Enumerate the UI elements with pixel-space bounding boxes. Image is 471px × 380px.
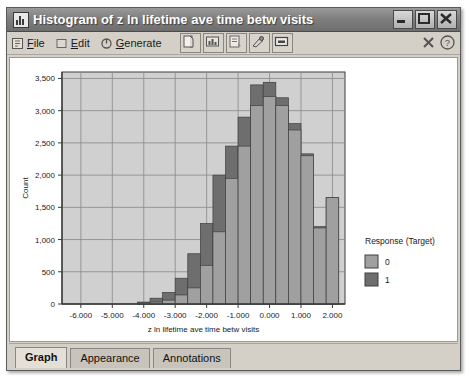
legend-label: 0 (385, 257, 390, 267)
svg-text:?: ? (445, 37, 450, 48)
legend-swatch (365, 273, 378, 286)
y-tick-label: 500 (42, 268, 56, 277)
x-axis-title: z ln lifetime ave time betw visits (148, 325, 260, 334)
y-tick-label: 3,500 (35, 74, 56, 83)
y-tick-label: 2,500 (35, 139, 56, 148)
histogram-bar[interactable] (326, 198, 339, 304)
toolbar: File Edit Generate (7, 32, 460, 55)
x-tick-label: -6.000 (70, 311, 93, 320)
y-tick-label: 1,500 (35, 203, 56, 212)
x-tick-label: -4.000 (132, 311, 155, 320)
histogram-window: Histogram of z ln lifetime ave time betw… (6, 7, 461, 371)
y-axis-title: Count (21, 177, 30, 199)
help-button[interactable]: ? (439, 34, 456, 51)
menu-file-label: File (27, 37, 45, 49)
toolbar-right-group: ? (418, 34, 456, 51)
chart-panel[interactable]: -6.000-5.000-4.000-3.000-2.000-1.0000.00… (9, 57, 458, 342)
maximize-button[interactable] (415, 10, 435, 29)
histogram-bar[interactable] (301, 156, 314, 304)
legend-title: Response (Target) (365, 236, 435, 246)
tab-appearance[interactable]: Appearance (70, 348, 149, 368)
y-tick-label: 1,000 (35, 236, 56, 245)
y-tick-label: 2,000 (35, 171, 56, 180)
y-tick-label: 3,000 (35, 107, 56, 116)
menu-generate-label: Generate (116, 37, 162, 49)
histogram-bar[interactable] (238, 146, 251, 304)
tab-strip: Graph Appearance Annotations (9, 343, 458, 368)
histogram-bar[interactable] (200, 265, 213, 304)
histogram-icon (13, 12, 29, 28)
x-axis-tick-labels: -6.000-5.000-4.000-3.000-2.000-1.0000.00… (70, 311, 343, 320)
histogram-bar[interactable] (175, 295, 188, 304)
edit-graph-button[interactable] (249, 33, 270, 53)
x-tick-label: -5.000 (101, 311, 124, 320)
x-tick-label: -3.000 (164, 311, 187, 320)
display-button[interactable] (272, 33, 293, 53)
window-title: Histogram of z ln lifetime ave time betw… (33, 12, 391, 27)
export-chart-button[interactable] (203, 33, 224, 53)
histogram-bar[interactable] (213, 232, 226, 304)
histogram-bar[interactable] (288, 130, 301, 304)
histogram-chart[interactable]: -6.000-5.000-4.000-3.000-2.000-1.0000.00… (10, 58, 457, 341)
menu-file[interactable]: File (11, 37, 45, 50)
y-axis-tick-labels: 05001,0001,5002,0002,5003,0003,500 (35, 74, 56, 309)
y-tick-label: 0 (51, 300, 56, 309)
print-button[interactable] (226, 33, 247, 53)
histogram-bar[interactable] (314, 228, 327, 304)
histogram-bar[interactable] (276, 106, 289, 304)
x-tick-label: 1.000 (291, 311, 312, 320)
menu-edit[interactable]: Edit (55, 37, 90, 50)
legend-swatch (365, 255, 378, 268)
file-icon (11, 37, 24, 50)
edit-icon (55, 37, 68, 50)
histogram-bar[interactable] (263, 96, 276, 304)
histogram-bar[interactable] (251, 106, 264, 304)
x-tick-label: 2.000 (322, 311, 343, 320)
minimize-button[interactable] (393, 10, 413, 29)
menu-generate[interactable]: Generate (100, 37, 162, 50)
title-bar: Histogram of z ln lifetime ave time betw… (7, 8, 460, 32)
generate-icon (100, 37, 113, 50)
tab-graph[interactable]: Graph (15, 347, 67, 368)
legend-label: 1 (385, 275, 390, 285)
close-view-button[interactable] (420, 34, 437, 51)
tab-annotations[interactable]: Annotations (153, 348, 231, 368)
x-tick-label: 0.000 (260, 311, 281, 320)
histogram-bar[interactable] (188, 288, 201, 304)
copy-button[interactable] (180, 33, 201, 53)
histogram-bar[interactable] (226, 178, 239, 304)
chart-legend: Response (Target)01 (365, 236, 435, 286)
close-button[interactable] (437, 10, 457, 29)
x-tick-label: -1.000 (227, 311, 250, 320)
x-tick-label: -2.000 (195, 311, 218, 320)
menu-edit-label: Edit (71, 37, 90, 49)
